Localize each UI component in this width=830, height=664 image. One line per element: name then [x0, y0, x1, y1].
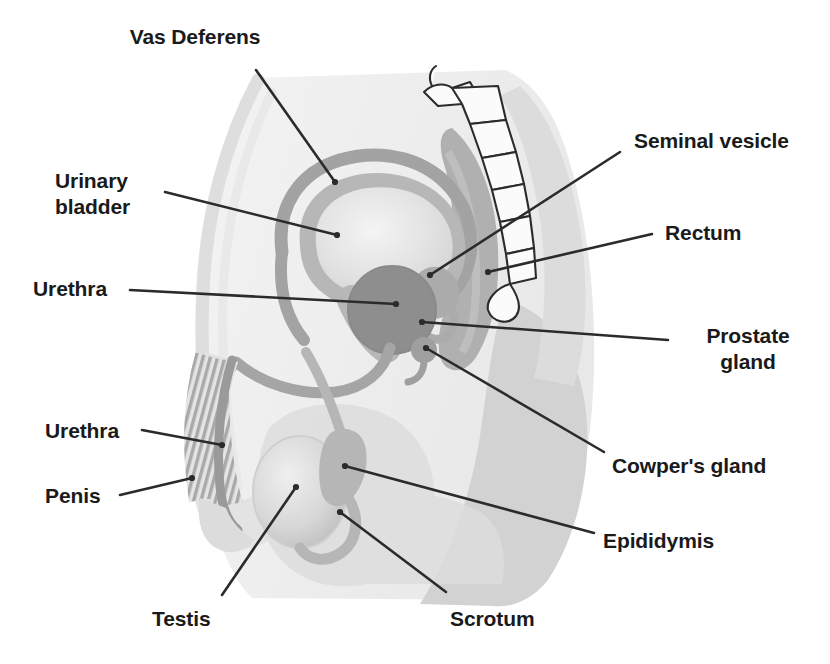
- label-penis: Penis: [45, 483, 101, 509]
- label-rectum: Rectum: [665, 220, 741, 246]
- label-testis: Testis: [152, 606, 211, 632]
- label-urinary-bladder: Urinary bladder: [55, 168, 130, 220]
- label-prostate-gland: Prostate gland: [675, 323, 821, 375]
- label-seminal-vesicle: Seminal vesicle: [634, 128, 789, 154]
- leader-dot-urethra-upper: [393, 301, 399, 307]
- leader-dot-vas-deferens: [332, 179, 338, 185]
- leader-dot-rectum: [485, 269, 491, 275]
- label-epididymis: Epididymis: [603, 528, 714, 554]
- leader-dot-prostate-gland: [419, 319, 425, 325]
- leader-line-penis: [120, 478, 192, 495]
- leader-dot-urinary-bladder: [334, 232, 340, 238]
- label-cowpers-gland: Cowper's gland: [612, 453, 766, 479]
- leader-dot-testis: [293, 484, 299, 490]
- label-scrotum: Scrotum: [450, 606, 534, 632]
- label-urethra-upper: Urethra: [33, 276, 107, 302]
- label-vas-deferens: Vas Deferens: [113, 24, 277, 50]
- leader-dot-penis: [189, 475, 195, 481]
- leader-dot-seminal-vesicle: [427, 272, 433, 278]
- leader-dot-scrotum: [337, 509, 343, 515]
- leader-dot-urethra-lower: [219, 442, 225, 448]
- anatomy-figure-root: Vas Deferens Urinary bladder Urethra Ure…: [0, 0, 830, 664]
- leader-dot-epididymis: [342, 463, 348, 469]
- label-urethra-lower: Urethra: [45, 418, 119, 444]
- leader-dot-cowpers-gland: [423, 345, 429, 351]
